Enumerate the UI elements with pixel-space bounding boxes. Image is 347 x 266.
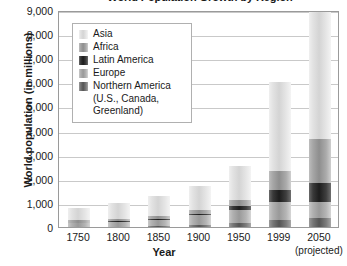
bar-1950 xyxy=(229,166,251,227)
x-axis-tick-sublabel: (projected) xyxy=(289,245,347,256)
bar-segment-asia xyxy=(229,166,251,200)
legend-label-africa: Africa xyxy=(93,41,119,53)
y-axis-tick: 4,000 xyxy=(0,126,53,138)
bar-segment-northern-america xyxy=(148,226,170,227)
latin-america-swatch-icon xyxy=(79,56,88,65)
bar-segment-europe xyxy=(309,202,331,217)
x-axis-title: Year xyxy=(58,246,270,258)
chart-legend: Asia Africa Latin America Europe Norther… xyxy=(72,23,192,123)
legend-label-latin-america: Latin America xyxy=(93,54,154,66)
legend-item-africa: Africa xyxy=(79,41,186,53)
bar-1850 xyxy=(148,196,170,227)
bar-segment-asia xyxy=(108,203,130,219)
bar-1750 xyxy=(68,208,90,227)
legend-item-asia: Asia xyxy=(79,28,186,40)
bar-segment-asia xyxy=(148,196,170,217)
bar-segment-latin-america xyxy=(269,190,291,202)
europe-swatch-icon xyxy=(79,69,88,78)
bar-segment-asia xyxy=(309,12,331,139)
legend-label-northern-america-line3: Greenland) xyxy=(79,105,186,117)
bar-segment-asia xyxy=(269,82,291,171)
bar-segment-northern-america xyxy=(309,218,331,227)
bar-segment-africa xyxy=(309,139,331,183)
y-axis-tick: 5,000 xyxy=(0,101,53,113)
bar-segment-latin-america xyxy=(309,183,331,203)
y-axis-tick: 3,000 xyxy=(0,150,53,162)
bar-segment-northern-america xyxy=(189,225,211,227)
bar-segment-asia xyxy=(189,186,211,211)
y-axis-tick: 2,000 xyxy=(0,174,53,186)
legend-item-northern-america: Northern America xyxy=(79,80,186,92)
legend-label-europe: Europe xyxy=(93,67,125,79)
y-axis-tick: 7,000 xyxy=(0,53,53,65)
bar-1900 xyxy=(189,186,211,227)
y-axis-tick: 9,000 xyxy=(0,5,53,17)
legend-item-latin-america: Latin America xyxy=(79,54,186,66)
legend-label-asia: Asia xyxy=(93,28,112,40)
chart-title: World Population Growth by Region xyxy=(58,0,342,3)
legend-label-northern-america: Northern America xyxy=(93,80,171,92)
bar-segment-northern-america xyxy=(269,220,291,227)
bar-segment-europe xyxy=(189,215,211,225)
bar-1999 xyxy=(269,82,291,227)
bar-segment-asia xyxy=(68,208,90,220)
bar-segment-europe xyxy=(229,210,251,223)
legend-item-europe: Europe xyxy=(79,67,186,79)
legend-label-northern-america-line2: (U.S., Canada, xyxy=(79,93,186,105)
y-axis-tick: 0 xyxy=(0,222,53,234)
bar-segment-europe xyxy=(269,202,291,220)
bar-segment-northern-america xyxy=(229,223,251,227)
bar-1800 xyxy=(108,203,130,227)
y-axis-tick: 8,000 xyxy=(0,29,53,41)
y-axis-tick: 1,000 xyxy=(0,198,53,210)
asia-swatch-icon xyxy=(79,30,88,39)
africa-swatch-icon xyxy=(79,43,88,52)
x-axis-tick: 2050 xyxy=(294,231,344,243)
northern-america-swatch-icon xyxy=(79,82,88,91)
bar-2050 xyxy=(309,12,331,227)
bar-segment-africa xyxy=(269,171,291,190)
y-axis-tick: 6,000 xyxy=(0,77,53,89)
